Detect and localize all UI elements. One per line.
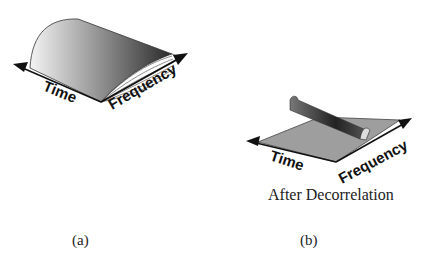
figure-canvas: Time Frequency Time Frequency After Deco… — [0, 0, 423, 273]
diagram-svg: Time Frequency Time Frequency — [0, 0, 423, 273]
figure-b-label: (b) — [300, 232, 318, 249]
figure-a-label: (a) — [72, 232, 89, 249]
figure-b-caption: After Decorrelation — [268, 186, 394, 204]
